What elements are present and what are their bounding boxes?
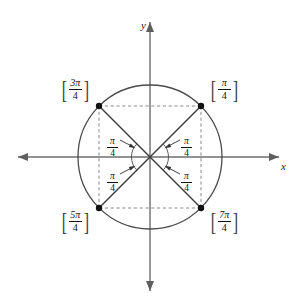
y-axis-arrow-up-icon xyxy=(146,22,154,32)
fraction-angle-lower-left: π 4 xyxy=(107,172,118,194)
fraction-5pi-4: 5π 4 xyxy=(69,210,82,233)
point-dot-5pi-4 xyxy=(96,205,102,211)
fraction-angle-lower-right: π 4 xyxy=(181,172,192,194)
point-dot-7pi-4 xyxy=(198,205,204,211)
bracket-close: ] xyxy=(83,79,88,101)
fraction-denominator: 4 xyxy=(72,222,79,233)
angle-label-lower-left: π 4 xyxy=(107,165,118,194)
point-label-pi-4: [ π 4 ] xyxy=(209,78,239,101)
bracket-open: [ xyxy=(62,79,67,101)
x-axis-arrow-right-icon xyxy=(269,153,279,161)
point-dot-3pi-4 xyxy=(96,103,102,109)
fraction-numerator: 3π xyxy=(69,78,81,89)
bracket-open: [ xyxy=(211,79,216,101)
fraction-3pi-4: 3π 4 xyxy=(69,78,82,101)
fraction-7pi-4: 7π 4 xyxy=(218,210,231,233)
fraction-denominator: 4 xyxy=(109,183,116,193)
point-label-7pi-4: [ 7π 4 ] xyxy=(209,210,239,233)
fraction-angle-upper-left: π 4 xyxy=(107,137,118,159)
fraction-angle-upper-right: π 4 xyxy=(181,137,192,159)
figure-canvas xyxy=(0,0,297,302)
point-label-3pi-4: [ 3π 4 ] xyxy=(60,78,90,101)
x-axis-label: x xyxy=(281,161,286,172)
y-axis-arrow-down-icon xyxy=(146,281,154,291)
point-dot-pi-4 xyxy=(198,103,204,109)
angle-label-lower-right: π 4 xyxy=(181,165,192,194)
fraction-pi-4: π 4 xyxy=(218,78,231,101)
bracket-close: ] xyxy=(83,211,88,233)
horizontal-axis xyxy=(18,153,279,161)
fraction-denominator: 4 xyxy=(221,222,228,233)
unit-circle-figure: y x [ 3π 4 ] [ π 4 ] [ 5π 4 ] [ 7π xyxy=(0,0,297,302)
fraction-numerator: π xyxy=(183,172,190,182)
fraction-numerator: 7π xyxy=(218,210,230,221)
fraction-denominator: 4 xyxy=(72,90,79,101)
fraction-numerator: π xyxy=(221,78,228,89)
fraction-numerator: π xyxy=(109,172,116,182)
fraction-denominator: 4 xyxy=(183,148,190,158)
fraction-denominator: 4 xyxy=(183,183,190,193)
x-axis-arrow-left-icon xyxy=(18,153,28,161)
fraction-numerator: π xyxy=(183,137,190,147)
y-axis-label: y xyxy=(141,20,146,31)
fraction-denominator: 4 xyxy=(221,90,228,101)
bracket-open: [ xyxy=(211,211,216,233)
fraction-numerator: 5π xyxy=(69,210,81,221)
angle-label-upper-left: π 4 xyxy=(107,130,118,159)
bracket-close: ] xyxy=(232,79,237,101)
bracket-close: ] xyxy=(232,211,237,233)
bracket-open: [ xyxy=(62,211,67,233)
point-label-5pi-4: [ 5π 4 ] xyxy=(60,210,90,233)
angle-label-upper-right: π 4 xyxy=(181,130,192,159)
fraction-numerator: π xyxy=(109,137,116,147)
fraction-denominator: 4 xyxy=(109,148,116,158)
